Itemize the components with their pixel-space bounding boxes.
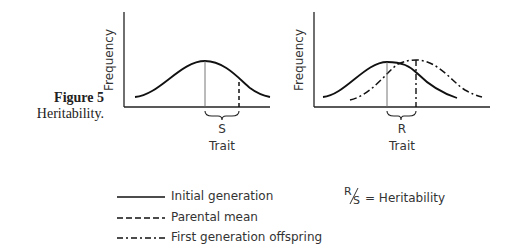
formula-text: = Heritability	[365, 191, 445, 205]
legend-label-initial: Initial generation	[171, 189, 273, 203]
formula-numerator: R	[344, 185, 352, 198]
heritability-diagram: Frequency S Trait Frequency R Trait R S …	[0, 0, 516, 250]
left-initial-curve	[135, 61, 270, 97]
selection-differential-label: S	[218, 122, 226, 136]
legend-label-offspring: First generation offspring	[171, 230, 322, 244]
legend	[117, 197, 165, 238]
response-label: R	[398, 122, 406, 136]
right-x-label: Trait	[388, 139, 415, 153]
right-plot: Frequency R Trait	[292, 12, 490, 153]
formula-denominator: S	[353, 194, 360, 207]
left-brace	[205, 111, 239, 120]
right-brace	[387, 111, 416, 120]
left-plot: Frequency S Trait	[102, 12, 270, 153]
legend-label-parental: Parental mean	[171, 210, 258, 224]
left-x-label: Trait	[208, 139, 235, 153]
heritability-formula: R S = Heritability	[344, 185, 445, 207]
left-y-label: Frequency	[102, 29, 116, 91]
right-y-label: Frequency	[292, 29, 306, 91]
